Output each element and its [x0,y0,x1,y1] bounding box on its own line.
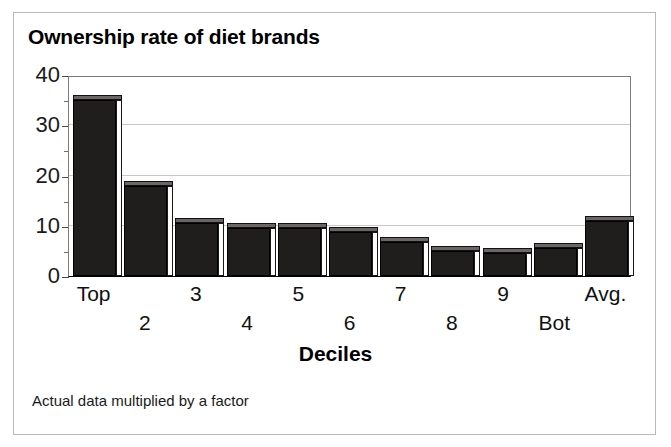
bar-front-face [329,232,372,276]
bar-side-face [218,223,224,276]
x-axis-tick-label: Top [54,283,134,305]
x-axis-tick-label: 6 [310,312,390,334]
chart-footnote: Actual data multiplied by a factor [32,392,249,409]
x-axis-tick-label: 4 [207,312,287,334]
bar-side-face [372,232,378,276]
x-axis-tick-label: 8 [412,312,492,334]
y-axis-tick-label-text: 30 [16,114,60,136]
bar-side-face [474,251,480,276]
bar [380,237,429,276]
bar-side-face [321,228,327,276]
bar [329,227,378,276]
bar [124,181,173,276]
bar-front-face [278,228,321,276]
y-axis-tick-label-text: 40 [16,64,60,86]
x-axis-tick-label: 2 [105,312,185,334]
bar-front-face [534,248,577,276]
chart-title: Ownership rate of diet brands [28,24,320,50]
bar-side-face [628,221,634,276]
y-axis-tick-label-text: 20 [16,165,60,187]
bar-side-face [167,186,173,276]
bar-front-face [431,251,474,276]
bar-side-face [270,228,276,276]
bar [227,223,276,276]
y-axis-tick-label-text: 10 [16,215,60,237]
bar-front-face [227,228,270,276]
y-axis-tick-mark [62,277,69,278]
bar [585,216,634,276]
x-axis-tick-label: Bot [514,312,594,334]
bar [73,95,122,276]
bar-front-face [380,242,423,276]
bar-front-face [483,253,526,276]
gridline [69,124,630,125]
x-axis-tick-label: 3 [156,283,236,305]
bar [175,218,224,276]
bar-front-face [175,223,218,276]
x-axis-tick-label: Avg. [565,283,645,305]
figure-container: Ownership rate of diet brands 010203040 … [0,0,671,447]
bar-side-face [423,242,429,276]
x-axis-tick-label: 5 [258,283,338,305]
x-axis-tick-label: 7 [361,283,441,305]
gridline [69,175,630,176]
bar-side-face [116,100,122,276]
bar [278,223,327,276]
bar-front-face [585,221,628,276]
bar [534,243,583,276]
x-axis-title: Deciles [0,342,671,366]
bar-side-face [526,253,532,276]
bar [431,246,480,276]
bar-front-face [124,186,167,276]
plot-area [68,76,631,277]
x-axis-tick-label: 9 [463,283,543,305]
bar-side-face [577,248,583,276]
bar-front-face [73,100,116,276]
bar [483,248,532,276]
